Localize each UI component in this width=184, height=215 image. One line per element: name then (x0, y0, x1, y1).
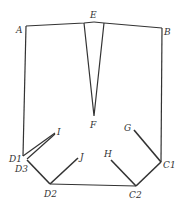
label-d2: D2 (43, 189, 57, 199)
label-i: I (56, 127, 61, 137)
label-f: F (89, 120, 97, 130)
edge-c2-c1 (136, 162, 161, 186)
label-d1: D1 (8, 154, 22, 164)
line-c2-h (111, 160, 136, 186)
label-e: E (89, 10, 97, 20)
label-d3: D3 (14, 164, 28, 174)
label-b: B (163, 27, 171, 37)
pattern-diagram: A E B F I G D1 D3 J H C1 D2 C2 (0, 0, 184, 215)
label-c2: C2 (129, 190, 142, 200)
label-j: J (78, 152, 85, 162)
label-c1: C1 (163, 160, 176, 170)
line-d2-j (50, 158, 78, 184)
label-h: H (103, 149, 112, 159)
edge-d2-c2 (50, 184, 136, 186)
edge-d3-d2 (27, 160, 50, 184)
dart-line-d3-i (27, 134, 55, 159)
label-g: G (124, 123, 131, 133)
right-side-edge (161, 28, 162, 162)
label-a: A (15, 25, 23, 35)
dart-line-d1-i (23, 133, 55, 156)
center-dart (84, 23, 104, 116)
left-side-edge (23, 26, 26, 156)
line-c1-g (134, 130, 161, 162)
